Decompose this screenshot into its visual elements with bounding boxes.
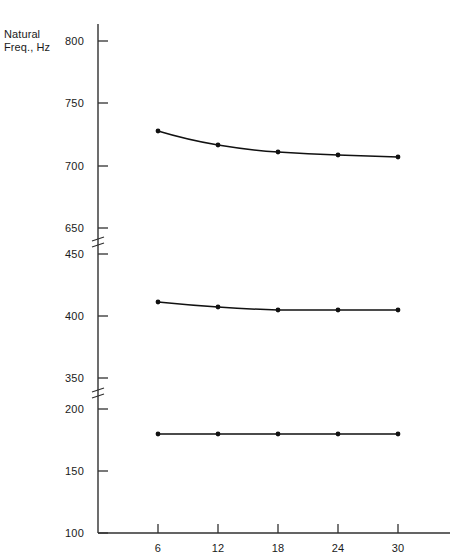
data-point [336, 308, 341, 313]
data-point [216, 143, 221, 148]
data-point [216, 305, 221, 310]
data-point [216, 432, 221, 437]
series-mode-1 [156, 432, 401, 437]
chart-canvas: NaturalFreq., Hz 800 750 700 650 450 400… [0, 0, 455, 559]
data-point [276, 432, 281, 437]
data-point [336, 432, 341, 437]
plot-area [0, 0, 455, 559]
data-point [276, 150, 281, 155]
data-point [156, 432, 161, 437]
data-point [276, 308, 281, 313]
data-point [156, 300, 161, 305]
data-point [336, 153, 341, 158]
data-point [156, 129, 161, 134]
series-mode-3 [156, 129, 401, 160]
series-mode-2 [156, 300, 401, 313]
data-point [396, 155, 401, 160]
data-point [396, 308, 401, 313]
x-axis [98, 524, 450, 533]
y-axis [92, 24, 108, 533]
data-point [396, 432, 401, 437]
